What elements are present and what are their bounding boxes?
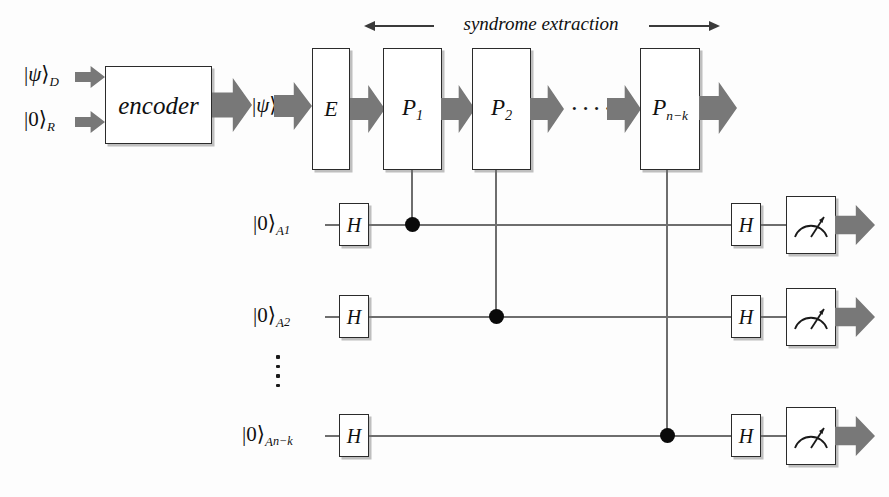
ancilla-wire-ank-segment-out <box>761 435 787 437</box>
measurement-box-ank <box>786 407 836 465</box>
ancilla-wire-a1-segment-out <box>761 224 787 226</box>
hadamard-in-a1: H <box>339 203 369 246</box>
syndrome-arrow-left-line <box>374 25 434 27</box>
meter-icon <box>791 300 831 334</box>
ket-symbol: 0 <box>257 303 268 327</box>
ket-subscript: A <box>265 434 273 449</box>
syndrome-extraction-annotation: syndrome extraction <box>364 8 720 38</box>
ancilla-label-ank: |0⟩An−k <box>242 424 293 448</box>
input-arrow-zero-r <box>75 111 105 133</box>
ket-angle: ⟩ <box>268 211 276 235</box>
projector-label-p1: P1 <box>402 96 423 123</box>
syndrome-arrow-right-head <box>709 21 720 31</box>
encoder-box: encoder <box>105 66 212 144</box>
arrow-p2-to-ellipsis <box>530 85 564 133</box>
measurement-output-arrow-ank <box>835 416 875 456</box>
syndrome-arrow-right-line <box>649 25 709 27</box>
projector-subscript: 2 <box>505 107 512 123</box>
control-line-pnk <box>666 170 668 437</box>
projector-box-p1: P1 <box>383 48 442 170</box>
arrow-into-error-gate <box>274 82 312 130</box>
ancilla-wire-ank-segment-in <box>325 435 340 437</box>
input-label-zero-r: |0⟩R <box>24 109 55 133</box>
ellipsis-dot <box>276 355 280 359</box>
hadamard-label: H <box>347 307 361 327</box>
ket-symbol: ψ <box>28 62 41 86</box>
hadamard-label: H <box>739 307 753 327</box>
ancilla-label-a2: |0⟩A2 <box>253 305 290 329</box>
meter-icon <box>791 419 831 453</box>
hadamard-out-a2: H <box>731 295 761 338</box>
syndrome-extraction-label: syndrome extraction <box>438 13 644 35</box>
projector-subscript: 1 <box>416 107 423 123</box>
encoder-label: encoder <box>118 93 199 118</box>
arrow-p1-to-p2 <box>441 85 475 133</box>
encoder-output-arrow <box>212 78 252 132</box>
ancilla-wire-a1-main <box>369 224 732 226</box>
ket-symbol: 0 <box>246 422 257 446</box>
ancilla-vertical-ellipsis <box>274 355 282 387</box>
measurement-box-a2 <box>786 288 836 346</box>
hadamard-label: H <box>347 426 361 446</box>
control-dot-p1-a1 <box>405 217 420 232</box>
ket-angle: ⟩ <box>257 422 265 446</box>
ket-angle: ⟩ <box>268 303 276 327</box>
projector-base: P <box>652 95 666 120</box>
ket-angle: ⟩ <box>39 107 47 131</box>
projector-box-p2: P2 <box>472 48 531 170</box>
meter-icon <box>791 208 831 242</box>
projector-label-p2: P2 <box>491 96 512 123</box>
projector-label-pnk: Pn−k <box>652 96 688 122</box>
hadamard-out-a1: H <box>731 203 761 246</box>
ellipsis-dot <box>276 365 280 369</box>
ket-symbol: ψ <box>256 93 269 117</box>
control-line-p2 <box>495 170 497 318</box>
control-dot-pnk-ank <box>660 428 675 443</box>
input-label-psi-d: |ψ⟩D <box>24 64 59 88</box>
projector-base: P <box>491 95 505 120</box>
input-arrow-psi-d <box>75 66 105 88</box>
ancilla-wire-a2-segment-out <box>761 316 787 318</box>
ket-subsubscript: 1 <box>284 223 290 237</box>
ancilla-wire-a1-segment-in <box>325 224 340 226</box>
quantum-circuit-diagram: syndrome extraction |ψ⟩D |0⟩R encoder |ψ… <box>0 0 889 497</box>
control-dot-p2-a2 <box>489 309 504 324</box>
hadamard-in-a2: H <box>339 295 369 338</box>
projector-subscript: n−k <box>666 108 688 123</box>
measurement-box-a1 <box>786 196 836 254</box>
ancilla-wire-a2-main <box>369 316 732 318</box>
ket-subsubscript: n−k <box>273 434 293 448</box>
arrow-ellipsis-to-pnk <box>607 85 641 133</box>
ket-subscript: R <box>47 119 55 134</box>
hadamard-label: H <box>739 426 753 446</box>
error-gate-label: E <box>324 98 337 120</box>
ellipsis-dot <box>276 384 280 388</box>
ket-symbol: 0 <box>28 107 39 131</box>
circuit-output-arrow <box>699 82 737 134</box>
hadamard-in-ank: H <box>339 414 369 457</box>
measurement-output-arrow-a1 <box>835 205 875 245</box>
measurement-output-arrow-a2 <box>835 297 875 337</box>
ellipsis-dot <box>276 374 280 378</box>
ancilla-wire-a2-segment-in <box>325 316 340 318</box>
ket-subscript: D <box>49 74 58 89</box>
ket-symbol: 0 <box>257 211 268 235</box>
ancilla-wire-ank-main <box>369 435 732 437</box>
ket-subscript: A <box>276 223 284 238</box>
arrow-error-to-p1 <box>350 85 385 133</box>
error-gate-box: E <box>312 48 350 170</box>
ancilla-label-a1: |0⟩A1 <box>253 213 290 237</box>
projector-box-pnk: Pn−k <box>640 48 700 170</box>
projector-base: P <box>402 95 416 120</box>
ket-subsubscript: 2 <box>284 315 290 329</box>
hadamard-out-ank: H <box>731 414 761 457</box>
ket-subscript: A <box>276 315 284 330</box>
hadamard-label: H <box>347 215 361 235</box>
hadamard-label: H <box>739 215 753 235</box>
